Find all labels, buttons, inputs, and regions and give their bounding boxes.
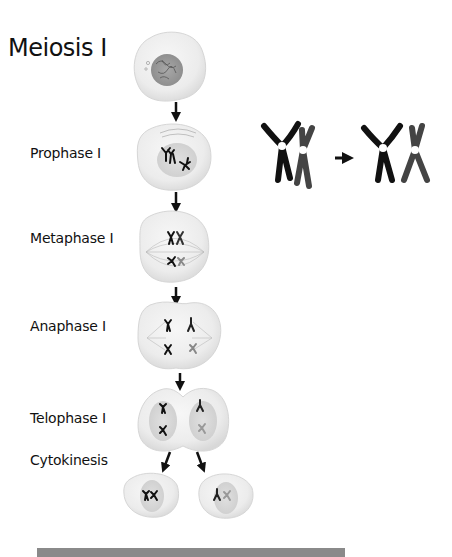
cell-telophase-1 [138,388,229,451]
daughter-cell-left [124,473,179,517]
arrow-cytokinesis-right [197,452,203,468]
arrow-cytokinesis-left [164,452,170,468]
crossing-over-inset [264,124,427,186]
meiosis-diagram [0,0,452,557]
daughter-cell-right [199,474,253,518]
cell-anaphase-1 [138,302,221,369]
cell-metaphase-1 [140,211,209,282]
homologous-pair-before [264,124,312,186]
cell-prophase-1 [137,124,211,190]
homologous-pair-after [364,126,427,180]
bottom-bar [37,548,345,557]
cell-interphase [134,32,205,101]
